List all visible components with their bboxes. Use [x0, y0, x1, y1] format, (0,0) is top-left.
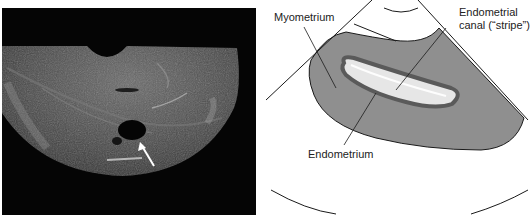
ultrasound-image [2, 8, 256, 215]
outer-arc-right [471, 190, 528, 214]
canal-label-line1: Endometrial [459, 6, 518, 18]
myometrium-label: Myometrium [274, 11, 335, 23]
dark-fluid-region [118, 120, 146, 140]
transducer-arc [384, 8, 418, 12]
scan-fan-region [2, 38, 256, 188]
ultrasound-scan [2, 8, 256, 215]
uterus-diagram: Myometrium Endometrial canal (“stripe”) … [266, 0, 532, 219]
outer-arc-left [271, 190, 336, 214]
endometrium-label: Endometrium [308, 148, 373, 160]
diagram-svg: Myometrium Endometrial canal (“stripe”) … [266, 0, 532, 219]
canal-label-line2: canal (“stripe”) [459, 19, 530, 31]
